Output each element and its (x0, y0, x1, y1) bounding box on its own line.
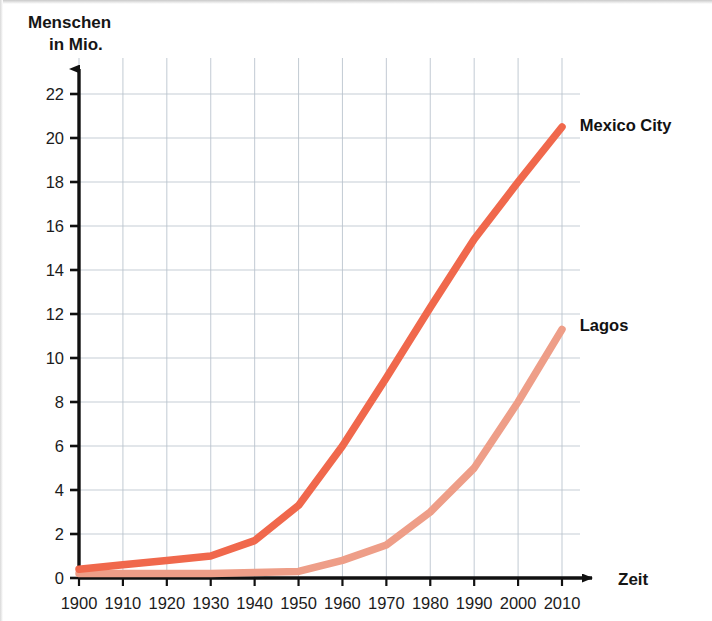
y-tick-label: 6 (55, 437, 64, 455)
x-tick-label: 1990 (456, 594, 493, 612)
y-tick-label: 20 (46, 129, 64, 147)
x-tick-label: 1910 (105, 594, 142, 612)
x-tick-label: 1970 (368, 594, 405, 612)
x-tick-label: 1940 (236, 594, 273, 612)
y-tick-label: 18 (46, 173, 64, 191)
series-labels: Mexico CityLagos (580, 116, 673, 334)
y-tick-label: 0 (55, 569, 64, 587)
x-tick-label: 2000 (500, 594, 537, 612)
x-tick-label: 1960 (324, 594, 361, 612)
series-line (79, 127, 562, 569)
x-tick-label: 1950 (280, 594, 317, 612)
y-axis-tick-labels: 0246810121416182022 (46, 85, 64, 587)
line-chart: 0246810121416182022 19001910192019301940… (0, 0, 712, 621)
series-line (79, 329, 562, 573)
y-tick-label: 2 (55, 525, 64, 543)
x-tick-label: 2010 (544, 594, 581, 612)
y-tick-label: 22 (46, 85, 64, 103)
x-axis-title: Zeit (618, 570, 649, 589)
y-axis-title-line2: in Mio. (49, 35, 103, 54)
chart-canvas: 0246810121416182022 19001910192019301940… (0, 0, 712, 621)
y-tick-label: 10 (46, 349, 64, 367)
x-axis-tick-labels: 1900191019201930194019501960197019801990… (61, 594, 581, 612)
x-tick-label: 1930 (192, 594, 229, 612)
grid-lines (79, 58, 580, 578)
y-axis-title-line1: Menschen (28, 13, 111, 32)
series-label: Lagos (580, 316, 629, 334)
series-label: Mexico City (580, 116, 673, 134)
x-tick-label: 1920 (148, 594, 185, 612)
y-tick-label: 14 (46, 261, 64, 279)
y-tick-label: 8 (55, 393, 64, 411)
y-tick-label: 12 (46, 305, 64, 323)
y-tick-label: 16 (46, 217, 64, 235)
y-tick-label: 4 (55, 481, 64, 499)
x-tick-label: 1980 (412, 594, 449, 612)
data-series-layer (79, 127, 562, 574)
x-tick-label: 1900 (61, 594, 98, 612)
